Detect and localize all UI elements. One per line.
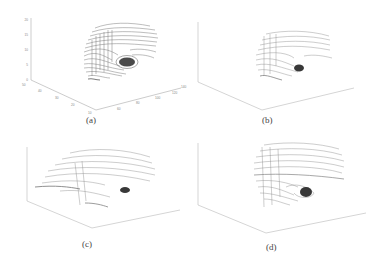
- streamline-plot-c: [0, 135, 194, 271]
- svg-text:50: 50: [22, 83, 26, 87]
- svg-text:0: 0: [26, 78, 28, 82]
- svg-text:20: 20: [24, 18, 28, 22]
- svg-text:100: 100: [155, 96, 161, 100]
- vortex-core-b: [294, 65, 304, 72]
- svg-text:60: 60: [117, 107, 121, 111]
- streamlines-d: [254, 143, 344, 207]
- streamlines-c: [35, 150, 155, 207]
- panel-d: (d): [194, 135, 388, 270]
- caption-d: (d): [266, 242, 277, 252]
- vortex-core-a: [119, 58, 135, 67]
- streamline-plot-d: [194, 135, 388, 271]
- streamlines-b: [256, 31, 332, 80]
- svg-text:5: 5: [26, 63, 28, 67]
- svg-text:40: 40: [38, 89, 42, 93]
- vortex-core-d: [300, 187, 312, 197]
- streamline-plot-a: 0 5 10 15 20 10 20 30 40 50 60 80 100 12…: [0, 0, 194, 135]
- caption-c: (c): [82, 239, 92, 249]
- svg-text:120: 120: [172, 91, 178, 95]
- svg-text:140: 140: [181, 85, 187, 89]
- panel-a: 0 5 10 15 20 10 20 30 40 50 60 80 100 12…: [0, 0, 194, 135]
- streamlines-a: [84, 23, 158, 80]
- svg-text:30: 30: [55, 96, 59, 100]
- svg-text:15: 15: [24, 33, 28, 37]
- streamline-plot-b: [194, 0, 388, 135]
- caption-a: (a): [86, 115, 96, 125]
- svg-text:80: 80: [136, 101, 140, 105]
- panel-c: (c): [0, 135, 194, 270]
- vortex-core-c: [120, 187, 130, 193]
- caption-b: (b): [262, 115, 273, 125]
- svg-text:10: 10: [24, 48, 28, 52]
- svg-text:20: 20: [71, 103, 75, 107]
- panel-b: (b): [194, 0, 388, 135]
